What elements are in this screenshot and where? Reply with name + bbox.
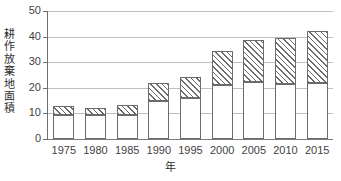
- bar-segment-lower: [307, 83, 328, 139]
- bar-1995: [180, 77, 201, 139]
- bar-segment-upper: [148, 83, 169, 100]
- bar-2000: [212, 51, 233, 139]
- y-tick-label: 20: [1, 82, 41, 93]
- chart-screenshot: 耕 作 放 棄 地 面 積 01020304050 19751980198519…: [0, 0, 341, 181]
- bar-segment-upper: [53, 106, 74, 115]
- bar-1985: [117, 105, 138, 139]
- bar-segment-lower: [212, 85, 233, 139]
- y-tick-label: 10: [1, 107, 41, 118]
- bar-segment-upper: [180, 77, 201, 99]
- bar-segment-lower: [275, 84, 296, 139]
- y-axis-tick-labels: 01020304050: [0, 0, 41, 181]
- x-axis-title: 年: [0, 161, 341, 173]
- bar-segment-upper: [212, 51, 233, 85]
- bar-2010: [275, 38, 296, 139]
- bar-segment-lower: [243, 82, 264, 139]
- bar-segment-upper: [275, 38, 296, 85]
- gridline: [48, 11, 333, 12]
- y-tick-mark: [43, 113, 47, 114]
- bar-segment-lower: [53, 115, 74, 139]
- y-tick-label: 40: [1, 31, 41, 42]
- bar-segment-lower: [180, 98, 201, 139]
- bar-segment-lower: [117, 115, 138, 139]
- plot-area: [48, 11, 333, 139]
- y-tick-label: 50: [1, 5, 41, 16]
- bar-1975: [53, 106, 74, 139]
- bar-segment-lower: [148, 101, 169, 139]
- bar-2015: [307, 31, 328, 139]
- bar-segment-lower: [85, 115, 106, 139]
- y-tick-label: 30: [1, 56, 41, 67]
- bar-2005: [243, 40, 264, 139]
- y-tick-mark: [43, 11, 47, 12]
- y-tick-mark: [43, 139, 47, 140]
- gridline: [48, 139, 333, 140]
- x-tick-label: 2015: [297, 144, 337, 156]
- bar-1980: [85, 108, 106, 139]
- y-tick-label: 0: [1, 133, 41, 144]
- bar-segment-upper: [243, 40, 264, 81]
- y-tick-mark: [43, 37, 47, 38]
- y-tick-mark: [43, 88, 47, 89]
- bar-segment-upper: [117, 105, 138, 114]
- bar-segment-upper: [85, 108, 106, 115]
- y-tick-mark: [43, 62, 47, 63]
- bar-segment-upper: [307, 31, 328, 83]
- bar-1990: [148, 83, 169, 139]
